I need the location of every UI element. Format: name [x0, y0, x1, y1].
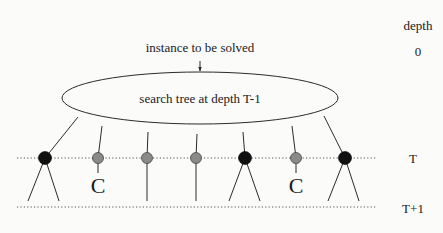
depth-label-t: T [409, 151, 417, 166]
instance-label: instance to be solved [146, 40, 255, 55]
node-gray-3 [142, 153, 153, 164]
search-tree-diagram: depth 0 T T+1 instance to be solved sear… [0, 0, 443, 233]
depth-label-0: 0 [415, 44, 422, 59]
edges-to-level-t [45, 116, 345, 158]
depth-header: depth [404, 18, 433, 33]
depth-label-t-plus-1: T+1 [402, 201, 424, 216]
node-gray-2 [93, 153, 104, 164]
node-gray-6 [291, 153, 302, 164]
node-black-1 [39, 152, 52, 165]
ellipse-label: search tree at depth T-1 [139, 91, 260, 106]
node-black-5 [239, 152, 252, 165]
down-arrow-icon [198, 61, 201, 72]
completed-marker-2: C [289, 173, 304, 198]
node-black-7 [339, 152, 352, 165]
node-gray-4 [191, 153, 202, 164]
completed-marker-1: C [91, 173, 106, 198]
